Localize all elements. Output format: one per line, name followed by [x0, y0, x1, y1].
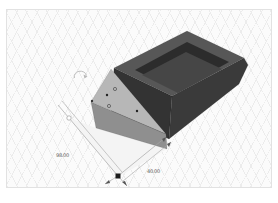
dimension-arrowhead — [167, 142, 171, 147]
page: 98.00 40.00 — [0, 0, 278, 203]
construction-point[interactable] — [136, 110, 138, 112]
construction-point[interactable] — [91, 100, 93, 102]
construction-point[interactable] — [106, 94, 108, 96]
scene-svg: 98.00 40.00 — [7, 10, 271, 187]
dimension-arrowhead — [105, 180, 110, 184]
dimension-label-left: 98.00 — [56, 152, 69, 158]
dimension-endpoint-circle[interactable] — [67, 116, 71, 120]
viewport-canvas[interactable]: 98.00 40.00 — [6, 9, 272, 188]
dimension-endpoint-square[interactable] — [116, 174, 121, 179]
orbit-icon — [74, 71, 87, 78]
dimension-arrowhead — [122, 181, 127, 186]
dimension-label-right: 40.00 — [147, 168, 160, 174]
